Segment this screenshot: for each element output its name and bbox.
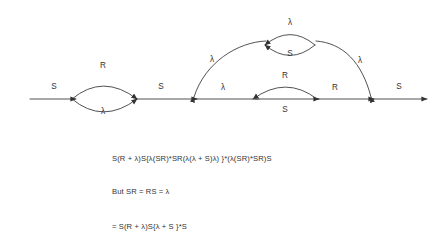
label-upper-loop-inner: S: [287, 49, 293, 58]
outer-arc-right-limb: [316, 41, 371, 97]
equation-line: = S(R + λ)S{λ + S }*S: [112, 222, 412, 233]
upper-loop-top-arc: [265, 35, 315, 46]
diagram-page: S R λ S λ λ λ λ S R S R S S(R + λ)S{λ(SR…: [0, 0, 442, 244]
label-r-base: R: [332, 83, 338, 92]
lower-loop-arc: [253, 87, 317, 99]
label-s-end: S: [396, 82, 402, 91]
outer-arc-left-limb: [194, 41, 266, 97]
label-outer-arc-right: λ: [358, 56, 363, 65]
first-loop-upper-arc: [72, 86, 137, 99]
label-lower-loop-bottom: S: [282, 105, 288, 114]
label-first-loop-top: R: [100, 61, 106, 70]
equation-line: S(R + λ)S{λ(SR)*SR(λ(λ + S)λ) }*(λ(SR)*S…: [112, 154, 412, 165]
label-s-start: S: [51, 82, 57, 91]
equation-block: S(R + λ)S{λ(SR)*SR(λ(λ + S)λ) }*(λ(SR)*S…: [112, 132, 412, 244]
label-s-mid: S: [158, 82, 164, 91]
label-outer-arc-left: λ: [210, 55, 215, 64]
label-upper-loop-top: λ: [288, 18, 293, 27]
equation-line: But SR = RS = λ: [112, 187, 412, 198]
label-lower-loop-top: R: [282, 71, 288, 80]
label-lambda-base: λ: [221, 83, 226, 92]
